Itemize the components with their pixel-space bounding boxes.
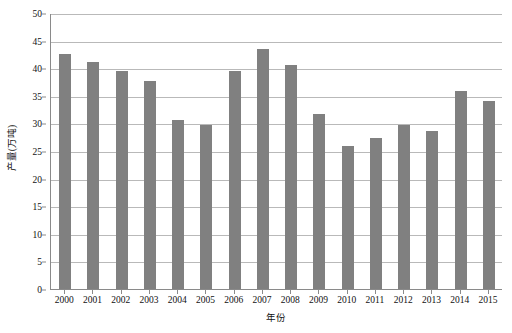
x-tick-mark xyxy=(149,290,150,294)
x-tick-mark xyxy=(177,290,178,294)
x-tick-label: 2013 xyxy=(422,295,441,305)
y-tick-mark xyxy=(42,41,46,42)
x-tick-label: 2001 xyxy=(83,295,102,305)
x-tick-label: 2000 xyxy=(55,295,74,305)
x-tick-mark xyxy=(375,290,376,294)
x-tick-label: 2015 xyxy=(478,295,497,305)
y-axis-title-label: 产量(万吨) xyxy=(4,124,18,170)
x-tick-mark xyxy=(234,290,235,294)
y-tick-label: 15 xyxy=(33,202,43,212)
bar xyxy=(116,71,128,289)
bar xyxy=(87,62,99,289)
x-tick-mark xyxy=(121,290,122,294)
y-tick-mark xyxy=(42,234,46,235)
x-tick-label: 2003 xyxy=(139,295,158,305)
y-tick-mark xyxy=(42,262,46,263)
bar xyxy=(257,49,269,289)
x-tick-label: 2009 xyxy=(309,295,328,305)
bar xyxy=(200,125,212,289)
x-tick-label: 2005 xyxy=(196,295,215,305)
x-tick-mark xyxy=(92,290,93,294)
bar xyxy=(398,125,410,289)
x-tick-label: 2002 xyxy=(111,295,130,305)
x-tick-label: 2006 xyxy=(224,295,243,305)
x-tick-mark xyxy=(431,290,432,294)
y-tick-label: 30 xyxy=(33,119,43,129)
y-axis-title: 产量(万吨) xyxy=(2,0,20,295)
x-tick-mark xyxy=(488,290,489,294)
y-tick-mark xyxy=(42,124,46,125)
x-tick-mark xyxy=(262,290,263,294)
x-tick-label: 2007 xyxy=(252,295,271,305)
x-axis-ticks: 2000200120022003200420052006200720082009… xyxy=(50,290,502,310)
y-tick-mark xyxy=(42,207,46,208)
bar-chart: 产量(万吨) 05101520253035404550 200020012002… xyxy=(0,0,512,333)
x-tick-label: 2011 xyxy=(366,295,385,305)
bar xyxy=(59,54,71,289)
y-tick-label: 25 xyxy=(33,147,43,157)
y-tick-mark xyxy=(42,69,46,70)
bar xyxy=(370,138,382,289)
y-tick-label: 10 xyxy=(33,230,43,240)
x-tick-mark xyxy=(318,290,319,294)
y-tick-label: 50 xyxy=(33,9,43,19)
x-tick-mark xyxy=(64,290,65,294)
bar xyxy=(455,91,467,289)
y-tick-label: 35 xyxy=(33,92,43,102)
bar xyxy=(483,101,495,289)
x-tick-label: 2008 xyxy=(281,295,300,305)
x-tick-mark xyxy=(460,290,461,294)
x-tick-label: 2004 xyxy=(168,295,187,305)
bar xyxy=(342,146,354,289)
x-axis-title: 年份 xyxy=(50,310,502,324)
bars xyxy=(51,14,502,289)
y-tick-mark xyxy=(42,179,46,180)
y-tick-mark xyxy=(42,152,46,153)
y-tick-label: 45 xyxy=(33,37,43,47)
bar xyxy=(313,114,325,289)
y-tick-mark xyxy=(42,290,46,291)
y-tick-label: 20 xyxy=(33,175,43,185)
y-tick-label: 40 xyxy=(33,64,43,74)
plot-area xyxy=(50,14,502,290)
y-tick-mark xyxy=(42,96,46,97)
bar xyxy=(285,65,297,289)
x-tick-mark xyxy=(205,290,206,294)
bar xyxy=(426,131,438,289)
bar xyxy=(144,81,156,289)
x-tick-mark xyxy=(403,290,404,294)
x-tick-label: 2014 xyxy=(450,295,469,305)
y-axis-ticks: 05101520253035404550 xyxy=(20,0,46,333)
bar xyxy=(172,120,184,289)
x-tick-label: 2012 xyxy=(394,295,413,305)
bar xyxy=(229,71,241,289)
x-tick-mark xyxy=(290,290,291,294)
x-tick-label: 2010 xyxy=(337,295,356,305)
x-tick-mark xyxy=(347,290,348,294)
y-tick-mark xyxy=(42,14,46,15)
